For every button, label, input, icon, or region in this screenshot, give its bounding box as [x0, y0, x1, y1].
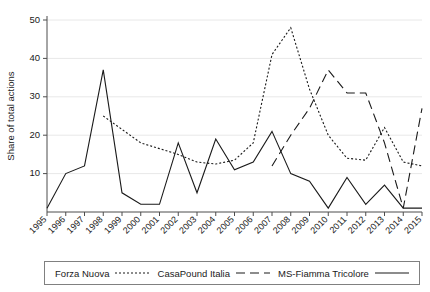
series-line-casapound-italia: [272, 70, 422, 208]
x-tick-label: 2004: [196, 214, 217, 235]
x-tick-label: 2001: [140, 214, 161, 235]
legend-swatch-solid-icon: [375, 269, 409, 277]
x-tick-label: 2007: [252, 214, 273, 235]
x-axis: 1995199619971998199920002001200220032004…: [27, 212, 423, 236]
legend-item-casapound-italia: CasaPound Italia: [158, 268, 270, 279]
x-tick-label: 1999: [102, 214, 123, 235]
x-tick-label: 2003: [177, 214, 198, 235]
y-axis: 1020304050: [29, 14, 47, 212]
y-tick-label: 50: [29, 14, 40, 25]
x-tick-label: 2015: [402, 214, 423, 235]
x-tick-label: 2009: [290, 214, 311, 235]
y-tick-label: 30: [29, 90, 40, 101]
gridlines: [47, 20, 422, 174]
line-chart-svg: 1020304050 19951996199719981999200020012…: [0, 0, 430, 292]
x-tick-label: 2008: [271, 214, 292, 235]
x-tick-label: 1997: [65, 214, 86, 235]
x-tick-label: 1998: [83, 214, 104, 235]
x-tick-label: 2006: [233, 214, 254, 235]
x-tick-label: 2011: [328, 214, 349, 235]
x-tick-label: 2010: [308, 214, 329, 235]
series-line-ms-fiamma-tricolore: [47, 70, 422, 208]
x-tick-label: 2012: [346, 214, 367, 235]
data-series: [47, 28, 422, 208]
x-tick-label: 1996: [46, 214, 67, 235]
y-tick-label: 40: [29, 52, 40, 63]
x-tick-label: 2000: [121, 214, 142, 235]
legend-label-ms-fiamma-tricolore: MS-Fiamma Tricolore: [278, 268, 369, 279]
legend-label-casapound-italia: CasaPound Italia: [158, 268, 230, 279]
y-axis-title: Share of total actions: [5, 71, 16, 160]
y-tick-label: 20: [29, 129, 40, 140]
legend-label-forza-nuova: Forza Nuova: [55, 268, 109, 279]
x-tick-label: 1995: [27, 214, 48, 235]
y-tick-label: 10: [29, 167, 40, 178]
legend-swatch-dotted-icon: [115, 269, 149, 277]
x-tick-label: 2005: [215, 214, 236, 235]
chart-legend: Forza Nuova CasaPound Italia MS-Fiamma T…: [44, 261, 420, 285]
x-tick-label: 2002: [158, 214, 179, 235]
x-tick-label: 2014: [383, 214, 404, 235]
chart-container: 1020304050 19951996199719981999200020012…: [0, 0, 430, 292]
x-tick-label: 2013: [365, 214, 386, 235]
legend-item-forza-nuova: Forza Nuova: [55, 268, 149, 279]
legend-item-ms-fiamma-tricolore: MS-Fiamma Tricolore: [278, 268, 409, 279]
legend-swatch-dashed-icon: [236, 269, 270, 277]
